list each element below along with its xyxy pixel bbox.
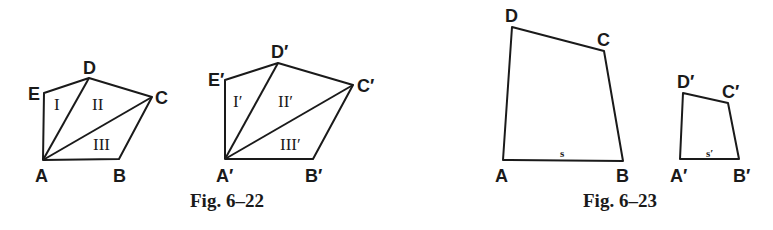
vertex-label-d-prime: D′ [271,42,288,62]
region-label-ii-prime: II′ [278,92,293,111]
region-label-i: I [54,95,60,114]
figure-caption-6-23: Fig. 6–23 [583,190,657,211]
vertex-label-b: B [113,166,126,186]
vertex-label-a: A [35,166,48,186]
side-label-s-prime: s′ [706,147,713,159]
figure-canvas: A B C D E I II III A′ B′ C′ D′ E′ I′ II′… [0,0,773,230]
vertex-label-b-prime: B′ [733,166,750,186]
pentagon-abcde: A B C D E I II III [28,58,168,186]
quadrilateral-abcd-prime: s′ A′ B′ C′ D′ [670,72,750,186]
vertex-label-c-prime: C′ [722,82,739,102]
vertex-label-b: B [616,166,629,186]
region-label-i-prime: I′ [233,92,242,111]
vertex-label-d: D [505,6,518,26]
side-label-s: s [560,147,565,159]
vertex-label-b-prime: B′ [305,166,322,186]
vertex-label-e: E [28,84,40,104]
vertex-label-d: D [83,58,96,78]
vertex-label-d-prime: D′ [677,72,694,92]
figure-caption-6-22: Fig. 6–22 [190,190,264,211]
region-label-iii: III [93,135,110,154]
pentagon-abcde-prime: A′ B′ C′ D′ E′ I′ II′ III′ [208,42,374,186]
vertex-label-a-prime: A′ [216,166,233,186]
vertex-label-c-prime: C′ [357,76,374,96]
vertex-label-a-prime: A′ [670,166,687,186]
region-label-ii: II [92,95,104,114]
region-label-iii-prime: III′ [280,135,301,154]
quadrilateral-abcd: s A B C D [495,6,629,186]
vertex-label-e-prime: E′ [208,70,224,90]
vertex-label-c: C [597,30,610,50]
vertex-label-c: C [155,88,168,108]
vertex-label-a: A [495,166,508,186]
